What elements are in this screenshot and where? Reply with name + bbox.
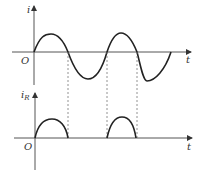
diagram-canvas: i O t iR O t — [0, 0, 197, 173]
top-sine-curve — [34, 33, 171, 81]
waveform-diagram: i O t iR O t — [0, 0, 197, 173]
top-t-label: t — [186, 54, 191, 65]
top-graph: i O t — [12, 4, 191, 85]
top-y-label: i — [27, 4, 30, 15]
bottom-graph: iR O t — [14, 89, 192, 170]
top-origin-label: O — [21, 55, 29, 66]
bottom-t-label: t — [187, 141, 192, 152]
rectified-hump-1 — [35, 119, 68, 138]
rectified-hump-2 — [107, 117, 136, 138]
bottom-y-label-subscript: R — [23, 94, 30, 102]
bottom-y-label: iR — [21, 89, 30, 102]
bottom-origin-label: O — [24, 141, 32, 152]
